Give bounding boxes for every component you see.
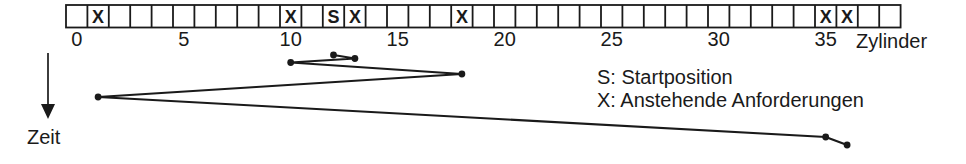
request-mark: X <box>841 7 853 27</box>
head-position-dot <box>287 59 294 66</box>
request-mark: X <box>456 7 468 27</box>
head-position-dot <box>844 142 851 149</box>
head-position-dot <box>330 52 337 59</box>
axis-tick-label: 30 <box>708 28 730 50</box>
axis-tick-label: 15 <box>387 28 409 50</box>
request-mark: X <box>349 7 361 27</box>
axis-tick-label: 25 <box>601 28 623 50</box>
axis-tick-label: 0 <box>71 28 82 50</box>
legend-requests-line: X: Anstehende Anforderungen <box>597 89 864 112</box>
axis-tick-label: 20 <box>494 28 516 50</box>
head-position-dot <box>822 134 829 141</box>
cylinder-axis-title: Zylinder <box>856 30 927 53</box>
legend: S: Startposition X: Anstehende Anforderu… <box>597 66 864 111</box>
axis-tick-label: 35 <box>815 28 837 50</box>
start-mark: S <box>327 7 339 27</box>
head-position-dot <box>95 94 102 101</box>
axis-tick-label: 10 <box>280 28 302 50</box>
time-axis-arrowhead <box>41 104 55 119</box>
head-position-dot <box>459 71 466 78</box>
request-mark: X <box>820 7 832 27</box>
time-axis-title: Zeit <box>27 126 60 149</box>
axis-tick-label: 5 <box>178 28 189 50</box>
head-position-dot <box>352 55 359 62</box>
legend-start-line: S: Startposition <box>597 66 864 89</box>
request-mark: X <box>285 7 297 27</box>
cylinder-strip <box>66 5 901 28</box>
request-mark: X <box>92 7 104 27</box>
